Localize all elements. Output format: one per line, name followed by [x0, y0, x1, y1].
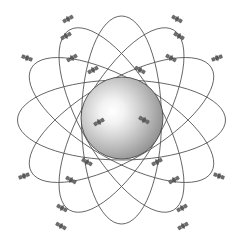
satellite-icon — [213, 171, 225, 181]
satellite-icon — [18, 171, 30, 181]
satellite-icon — [168, 174, 181, 185]
satellite-icon — [21, 53, 33, 63]
satellite-icon — [211, 53, 223, 63]
satellite-icon — [173, 30, 186, 41]
satellite-icon — [177, 220, 190, 231]
central-body-layer — [81, 77, 163, 159]
constellation-diagram — [0, 0, 243, 244]
satellite-icon — [171, 13, 184, 24]
earth-sphere — [81, 77, 163, 159]
satellite-icon — [62, 13, 75, 24]
satellite-icon — [134, 64, 147, 75]
satellite-icon — [176, 202, 189, 213]
satellite-icon — [55, 220, 68, 231]
satellite-constellation-figure — [0, 0, 243, 244]
satellite-icon — [65, 174, 78, 185]
satellite-icon — [87, 64, 100, 75]
